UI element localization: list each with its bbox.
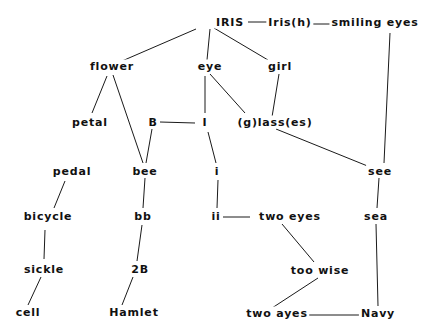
node-sea: sea xyxy=(362,210,390,223)
node-too-wise: too wise xyxy=(289,264,352,277)
edge-bb-2B xyxy=(137,225,142,261)
node-navy: Navy xyxy=(359,307,397,320)
edge-pedal-bicycle xyxy=(54,181,65,208)
edge-iris-flower xyxy=(122,29,196,61)
node-smiling-eyes: smiling eyes xyxy=(329,16,420,29)
node-ii: ii xyxy=(209,210,222,223)
node-bb: bb xyxy=(132,210,153,223)
edge-glasses-see xyxy=(276,129,370,167)
node-pedal: pedal xyxy=(51,165,93,178)
node-b: B xyxy=(146,116,159,129)
edge-B-I xyxy=(160,122,195,123)
node-i: I xyxy=(201,116,210,129)
edge-flower-petal xyxy=(92,76,107,113)
node-two-eyes: two eyes xyxy=(257,210,323,223)
node-irish: Iris(h) xyxy=(266,16,313,29)
edge-bee-bb xyxy=(143,178,145,208)
node-bicycle: bicycle xyxy=(22,210,75,223)
edge-too_wise-two_ayes xyxy=(272,278,318,308)
edge-bicycle-sickle xyxy=(44,230,45,259)
edge-sea-navy xyxy=(376,224,378,306)
edge-smiling_eyes-see xyxy=(384,33,390,163)
edge-B-bee xyxy=(146,129,152,163)
node-2b: 2B xyxy=(129,263,151,276)
node-glasses: (g)lass(es) xyxy=(235,116,314,129)
node-petal: petal xyxy=(70,116,110,129)
node-cell: cell xyxy=(14,306,43,319)
edge-eye-glasses xyxy=(210,74,245,113)
node-flower: flower xyxy=(88,60,136,73)
node-sickle: sickle xyxy=(22,263,66,276)
node-iris: IRIS xyxy=(214,16,246,29)
edge-iris-eye xyxy=(207,29,210,60)
edge-flower-bee xyxy=(113,75,143,163)
edge-girl-glasses xyxy=(272,74,279,117)
edge-two_eyes-too_wise xyxy=(282,224,314,262)
node-eye: eye xyxy=(196,60,225,73)
node-bee: bee xyxy=(130,165,159,178)
node-i-lower: i xyxy=(213,165,222,178)
edge-sickle-cell xyxy=(28,277,41,305)
edge-iris-girl xyxy=(214,28,268,60)
node-hamlet: Hamlet xyxy=(107,306,160,319)
node-two-ayes: two ayes xyxy=(244,307,309,320)
node-girl: girl xyxy=(266,60,294,73)
edge-2B-hamlet xyxy=(122,277,133,305)
node-see: see xyxy=(366,165,394,178)
edge-see-sea xyxy=(377,178,379,208)
edge-I-i_lower xyxy=(208,132,216,163)
edge-i_lower-ii xyxy=(217,180,218,208)
